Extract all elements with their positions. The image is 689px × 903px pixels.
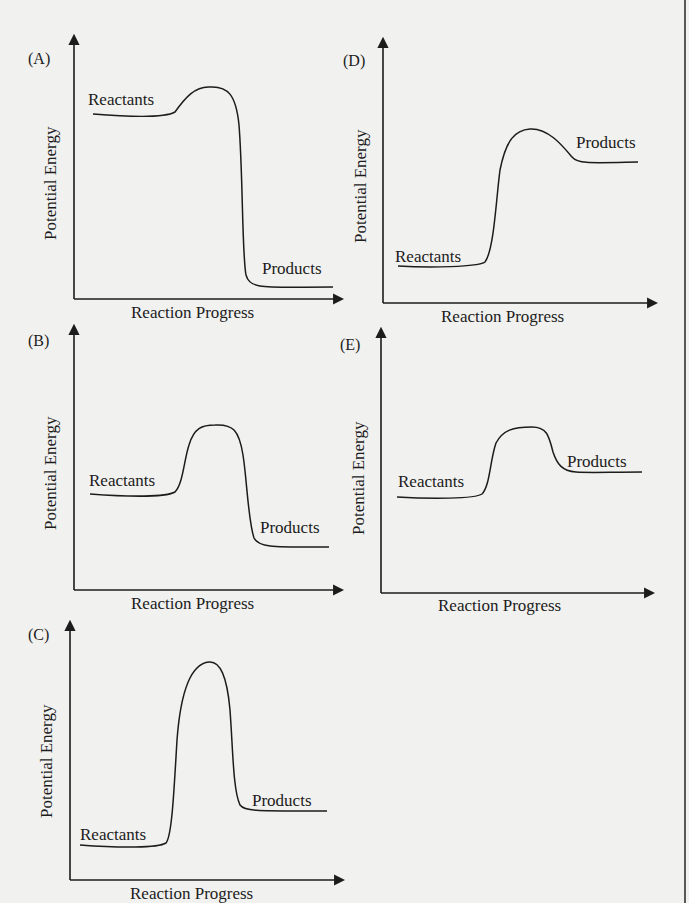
reactants-label: Reactants <box>398 472 464 491</box>
y-axis-label: Potential Energy <box>349 421 368 535</box>
energy-curve <box>93 87 333 287</box>
products-label: Products <box>260 518 320 537</box>
panel-d-label: (D) <box>343 52 365 70</box>
reactants-label: Reactants <box>395 247 461 266</box>
panel-c: (C) Potential Energy Reaction Progress R… <box>28 622 343 903</box>
panel-b: (B) Potential Energy Reaction Progress R… <box>28 326 342 613</box>
y-axis-label: Potential Energy <box>351 129 370 243</box>
x-axis-label: Reaction Progress <box>441 307 564 326</box>
y-axis-label: Potential Energy <box>41 126 60 240</box>
panel-c-label: (C) <box>28 626 49 644</box>
panel-e: (E) Potential Energy Reaction Progress R… <box>340 329 653 615</box>
energy-curve <box>80 662 327 847</box>
panel-a: (A) Potential Energy Reaction Progress R… <box>28 36 342 322</box>
x-axis-label: Reaction Progress <box>131 594 254 613</box>
panel-e-label: (E) <box>340 336 360 354</box>
products-label: Products <box>567 452 627 471</box>
x-axis-label: Reaction Progress <box>131 303 254 322</box>
energy-diagram-figure: (A) Potential Energy Reaction Progress R… <box>0 0 689 903</box>
y-axis-label: Potential Energy <box>41 416 60 530</box>
reactants-label: Reactants <box>89 471 155 490</box>
panel-a-label: (A) <box>28 50 50 68</box>
x-axis-label: Reaction Progress <box>130 884 253 903</box>
products-label: Products <box>262 259 322 278</box>
products-label: Products <box>252 791 312 810</box>
panel-d: (D) Potential Energy Reaction Progress R… <box>343 39 656 326</box>
panel-b-label: (B) <box>28 332 49 350</box>
products-label: Products <box>576 133 636 152</box>
reactants-label: Reactants <box>88 90 154 109</box>
x-axis-label: Reaction Progress <box>438 596 561 615</box>
y-axis-label: Potential Energy <box>37 704 56 818</box>
reactants-label: Reactants <box>80 825 146 844</box>
